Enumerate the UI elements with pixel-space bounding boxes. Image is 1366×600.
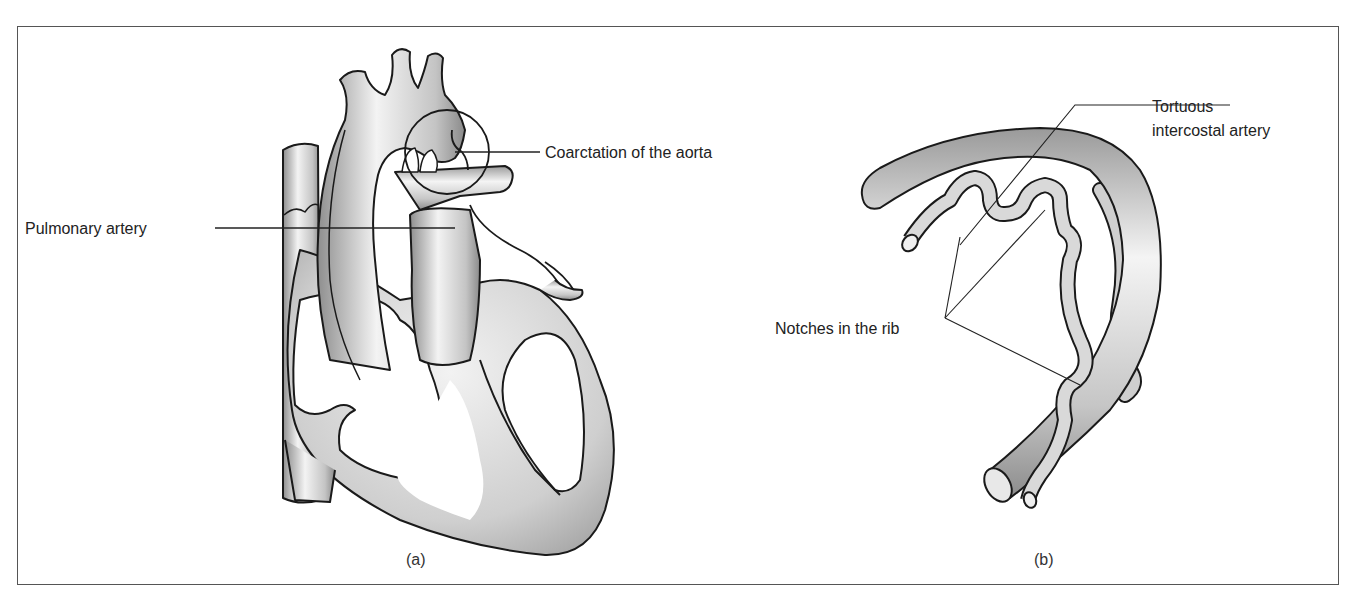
panel-caption-b: (b) xyxy=(1034,551,1054,569)
rib-illustration xyxy=(862,128,1161,510)
pulmonary-trunk xyxy=(410,208,480,365)
rib-body xyxy=(862,128,1161,498)
label-notches-in-rib: Notches in the rib xyxy=(775,319,900,338)
panel-caption-a: (a) xyxy=(406,551,426,569)
label-coarctation-of-aorta: Coarctation of the aorta xyxy=(545,143,712,162)
label-intercostal-artery: intercostal artery xyxy=(1152,121,1270,140)
label-tortuous: Tortuous xyxy=(1152,97,1213,116)
notch-leader-1 xyxy=(945,237,960,318)
notch-leader-3 xyxy=(945,318,1080,385)
notch-leader-2 xyxy=(945,210,1045,318)
heart-illustration xyxy=(283,49,614,555)
label-pulmonary-artery: Pulmonary artery xyxy=(25,219,147,238)
figure-artwork xyxy=(0,0,1366,600)
